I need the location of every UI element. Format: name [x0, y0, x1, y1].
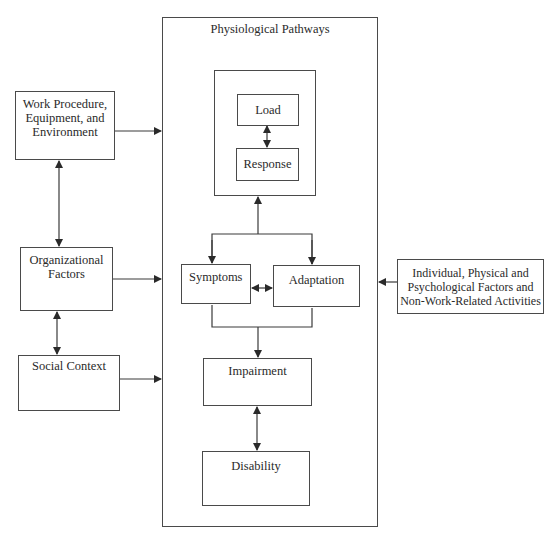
label-line: Psychological Factors and [398, 280, 543, 294]
node-symptoms: Symptoms [181, 264, 251, 304]
node-organizational-factors-label: Organizational Factors [21, 248, 112, 281]
label-line: Factors [21, 267, 112, 281]
node-load: Load [237, 94, 299, 126]
label-line: Environment [16, 125, 114, 139]
node-social-context: Social Context [18, 355, 120, 411]
node-impairment: Impairment [203, 358, 312, 406]
node-load-label: Load [238, 95, 298, 117]
node-individual-factors-label: Individual, Physical and Psychological F… [398, 260, 543, 308]
node-adaptation: Adaptation [273, 265, 360, 307]
label-line: Equipment, and [16, 111, 114, 125]
label-line: Work Procedure, [16, 97, 114, 111]
label-line: Individual, Physical and [398, 266, 543, 280]
label-line: Non-Work-Related Activities [398, 294, 543, 308]
node-response: Response [236, 148, 299, 181]
node-symptoms-label: Symptoms [182, 265, 250, 284]
node-work-procedure-label: Work Procedure, Equipment, and Environme… [16, 92, 114, 139]
node-work-procedure: Work Procedure, Equipment, and Environme… [15, 91, 115, 160]
node-individual-factors: Individual, Physical and Psychological F… [397, 259, 544, 314]
node-disability: Disability [202, 451, 310, 506]
node-organizational-factors: Organizational Factors [20, 247, 113, 311]
node-adaptation-label: Adaptation [274, 266, 359, 287]
node-social-context-label: Social Context [19, 356, 119, 373]
label-line: Social Context [19, 359, 119, 373]
label-line: Organizational [21, 253, 112, 267]
node-disability-label: Disability [203, 452, 309, 473]
node-response-label: Response [237, 149, 298, 171]
physiological-pathways-title: Physiological Pathways [163, 22, 377, 36]
node-impairment-label: Impairment [204, 359, 311, 378]
